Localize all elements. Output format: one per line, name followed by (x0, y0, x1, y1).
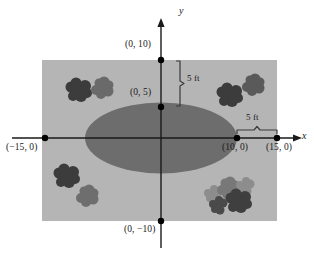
y-axis-label: y (179, 6, 184, 16)
horizontal-dimension-label: 5 ft (246, 113, 259, 122)
point-label-neg15-0: (−15, 0) (6, 143, 38, 153)
point-label-10-0: (10, 0) (222, 143, 248, 153)
garden-coordinate-figure: y x (0, 10) (0, 5) (0, −10) (−15, 0) (10… (0, 0, 314, 253)
vertical-dimension-label: 5 ft (187, 74, 200, 83)
point-label-15-0: (15, 0) (266, 143, 292, 153)
point-label-0-neg10: (0, −10) (124, 225, 156, 235)
point-0-5 (158, 104, 164, 110)
point-10-0 (234, 135, 240, 141)
point-0-10 (158, 57, 164, 63)
point-0-neg10 (158, 218, 164, 224)
point-15-0 (274, 135, 280, 141)
point-label-0-10: (0, 10) (125, 40, 151, 50)
point-neg15-0 (42, 135, 48, 141)
y-axis-arrowhead (157, 18, 164, 27)
figure-canvas (0, 0, 314, 253)
x-axis-label: x (302, 131, 307, 141)
x-axis-arrowhead (293, 134, 302, 141)
point-label-0-5: (0, 5) (130, 88, 151, 98)
